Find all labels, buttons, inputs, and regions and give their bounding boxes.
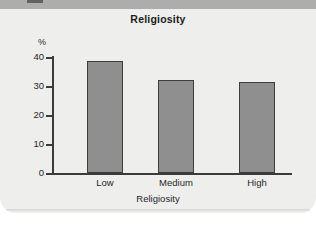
x-tick-label-medium: Medium [146,177,206,188]
figure-screenshot: Religiosity % 40 30 20 10 0 Low Medium H… [0,0,316,225]
y-tick-label-10: 10 [14,138,44,149]
x-tick-label-high: High [227,177,287,188]
bar-medium [158,80,194,173]
y-tick-label-0: 0 [14,167,44,178]
plot-area: % 40 30 20 10 0 Low Medium High Religios… [0,0,316,225]
y-tick-mark-40 [46,57,52,59]
y-tick-mark-0 [46,173,52,175]
y-tick-label-20: 20 [14,109,44,120]
x-axis-line [52,173,292,175]
y-axis-unit-label: % [22,37,46,47]
y-axis-line [52,56,54,174]
y-tick-label-30: 30 [14,80,44,91]
x-tick-label-low: Low [75,177,135,188]
bar-low [87,61,123,173]
y-tick-mark-30 [46,86,52,88]
y-tick-mark-20 [46,115,52,117]
y-tick-label-40: 40 [14,51,44,62]
bar-high [239,82,275,173]
y-tick-mark-10 [46,144,52,146]
x-axis-title: Religiosity [0,193,316,204]
